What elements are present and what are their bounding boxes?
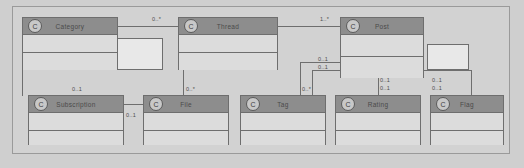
class-stereotype-icon: C xyxy=(346,19,360,33)
multiplicity-subscription-top: 0..1 xyxy=(72,86,82,92)
uml-class-file[interactable]: C File xyxy=(143,95,229,145)
class-attributes-post xyxy=(341,35,423,57)
edge-post-left-b xyxy=(312,70,340,71)
class-attributes-file xyxy=(144,113,228,131)
class-stereotype-icon: C xyxy=(436,97,450,111)
multiplicity-post-left-b: 0..1 xyxy=(318,64,328,70)
multiplicity-subscription-right: 0..1 xyxy=(126,112,136,118)
class-attributes-thread xyxy=(179,35,277,53)
edge-thread-file-v xyxy=(183,70,184,95)
class-operations-file xyxy=(144,131,228,145)
class-attributes-category xyxy=(23,35,117,53)
class-operations-post xyxy=(341,57,423,78)
class-header-category: C Category xyxy=(23,18,117,35)
class-attributes-subscription xyxy=(29,113,123,131)
class-stereotype-icon: C xyxy=(341,97,355,111)
routing-channel-right xyxy=(427,44,469,70)
class-header-file: C File xyxy=(144,96,228,113)
class-attributes-flag xyxy=(431,113,503,131)
edge-post-tag-v2 xyxy=(312,70,313,95)
edge-post-flag-h xyxy=(423,70,471,71)
uml-class-rating[interactable]: C Rating xyxy=(335,95,421,145)
class-header-flag: C Flag xyxy=(431,96,503,113)
class-stereotype-icon: C xyxy=(184,19,198,33)
class-header-subscription: C Subscription xyxy=(29,96,123,113)
class-header-thread: C Thread xyxy=(179,18,277,35)
class-stereotype-icon: C xyxy=(149,97,163,111)
class-operations-rating xyxy=(336,131,420,145)
uml-class-category[interactable]: C Category xyxy=(22,17,118,70)
multiplicity-flag: 0..1 xyxy=(432,85,442,91)
uml-class-subscription[interactable]: C Subscription xyxy=(28,95,124,145)
class-header-post: C Post xyxy=(341,18,423,35)
multiplicity-post-right-a: 0..1 xyxy=(432,77,442,83)
edge-thread-post xyxy=(278,26,340,27)
class-operations-category xyxy=(23,53,117,70)
multiplicity-category-thread: 0..* xyxy=(152,16,161,22)
class-header-tag: C Tag xyxy=(241,96,325,113)
class-header-rating: C Rating xyxy=(336,96,420,113)
multiplicity-post-left-a: 0..1 xyxy=(318,56,328,62)
uml-class-flag[interactable]: C Flag xyxy=(430,95,504,145)
edge-post-rating-v xyxy=(378,78,379,95)
edge-category-thread xyxy=(118,26,178,27)
class-operations-thread xyxy=(179,53,277,70)
edge-post-flag-v xyxy=(471,70,472,95)
diagram-canvas: 0..* 1..* 0..1 0..1 0..1 0..1 0..1 0..1 … xyxy=(0,0,524,168)
uml-class-post[interactable]: C Post xyxy=(340,17,424,78)
class-operations-subscription xyxy=(29,131,123,145)
uml-class-thread[interactable]: C Thread xyxy=(178,17,278,70)
class-operations-flag xyxy=(431,131,503,145)
uml-class-tag[interactable]: C Tag xyxy=(240,95,326,145)
class-operations-tag xyxy=(241,131,325,145)
class-attributes-tag xyxy=(241,113,325,131)
class-stereotype-icon: C xyxy=(28,19,42,33)
class-attributes-rating xyxy=(336,113,420,131)
multiplicity-tag: 0..* xyxy=(302,86,311,92)
edge-post-left-a xyxy=(300,62,340,63)
edge-post-tag-v xyxy=(300,62,301,95)
class-stereotype-icon: C xyxy=(246,97,260,111)
multiplicity-thread-post: 1..* xyxy=(320,16,329,22)
class-stereotype-icon: C xyxy=(34,97,48,111)
multiplicity-file: 0..* xyxy=(186,86,195,92)
multiplicity-post-bottom-a: 0..1 xyxy=(380,85,390,91)
edge-category-subscription-v xyxy=(22,70,23,96)
